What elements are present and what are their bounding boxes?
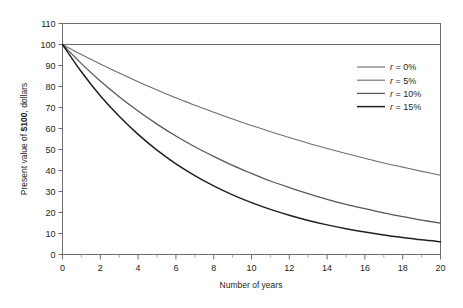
y-tick-label-10: 10 [45,229,55,239]
x-tick-label-16: 16 [360,263,370,273]
x-tick-label-4: 4 [136,263,141,273]
y-tick-label-90: 90 [45,61,55,71]
y-tick-label-20: 20 [45,208,55,218]
y-tick-label-50: 50 [45,145,55,155]
y-axis-title-bold: $100 [19,112,29,131]
x-tick-label-0: 0 [60,263,65,273]
svg-text:Present value of $100, dollars: Present value of $100, dollars [19,83,29,195]
legend-value-0: = 0% [393,62,416,72]
legend-value-2: = 10% [393,89,421,99]
legend-label-1: r = 5% [390,76,416,86]
y-tick-label-110: 110 [41,19,55,29]
x-tick-label-10: 10 [246,263,256,273]
y-tick-label-30: 30 [45,187,55,197]
y-axis-title-prefix: Present value of [19,131,29,195]
chart-container: 0102030405060708090100110 02468101214161… [0,0,463,308]
legend-value-1: = 5% [393,76,416,86]
x-tick-label-20: 20 [435,263,445,273]
x-tick-label-12: 12 [284,263,294,273]
y-tick-label-60: 60 [45,124,55,134]
x-tick-label-2: 2 [98,263,103,273]
x-tick-label-14: 14 [322,263,332,273]
legend-label-0: r = 0% [390,62,416,72]
chart-background [0,0,463,308]
y-tick-label-100: 100 [40,40,55,50]
y-axis-title-suffix: , dollars [19,83,29,113]
y-tick-label-80: 80 [45,82,55,92]
legend-label-3: r = 15% [390,102,421,112]
x-tick-label-6: 6 [173,263,178,273]
legend-label-2: r = 10% [390,89,421,99]
y-tick-label-40: 40 [45,166,55,176]
x-tick-label-8: 8 [211,263,216,273]
legend-value-3: = 15% [393,102,421,112]
present-value-line-chart: 0102030405060708090100110 02468101214161… [0,0,463,308]
y-tick-label-70: 70 [45,103,55,113]
x-tick-label-18: 18 [398,263,408,273]
y-tick-label-0: 0 [50,250,55,260]
y-axis-title: Present value of $100, dollars [19,83,29,195]
x-axis-title: Number of years [220,280,283,290]
